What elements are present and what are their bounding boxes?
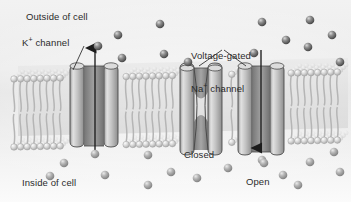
ion — [144, 181, 153, 190]
ion — [250, 49, 259, 58]
ion — [279, 171, 288, 180]
na-channel-label-tail: channel — [208, 83, 245, 94]
ion — [156, 20, 165, 29]
ion — [224, 164, 233, 173]
ion — [118, 54, 127, 63]
ion — [260, 159, 269, 168]
ion — [258, 18, 267, 27]
outside-of-cell-label: Outside of cell — [26, 11, 88, 22]
ion — [193, 174, 202, 183]
open-label: Open — [246, 176, 270, 187]
ion — [294, 181, 303, 190]
na-symbol: Na — [191, 83, 203, 94]
ion — [306, 16, 315, 25]
ion — [60, 159, 69, 168]
inside-of-cell-label: Inside of cell — [22, 177, 76, 188]
ion — [328, 31, 337, 40]
ion — [91, 150, 100, 159]
k-channel-label: K+ channel — [22, 37, 69, 48]
ion — [330, 148, 339, 157]
ion — [114, 31, 123, 40]
na-channel-label-line2: Na+ channel — [191, 83, 251, 94]
ion — [304, 43, 313, 52]
k-channel-label-tail: channel — [33, 37, 70, 48]
ion — [167, 168, 176, 177]
ion — [94, 42, 103, 51]
k-channel[interactable] — [70, 63, 118, 147]
na-channel-label: Voltage-gated Na+ channel — [191, 28, 251, 116]
ion — [282, 36, 291, 45]
ion — [336, 168, 345, 177]
ion — [101, 171, 110, 180]
closed-label: Closed — [184, 149, 214, 160]
ion-channel-diagram: Outside of cell K+ channel Voltage-gated… — [0, 0, 351, 202]
diagram-canvas — [0, 0, 351, 202]
ion — [160, 50, 169, 59]
ion — [336, 58, 345, 67]
ion — [306, 158, 315, 167]
ion — [144, 151, 153, 160]
na-channel-label-line1: Voltage-gated — [191, 50, 251, 61]
